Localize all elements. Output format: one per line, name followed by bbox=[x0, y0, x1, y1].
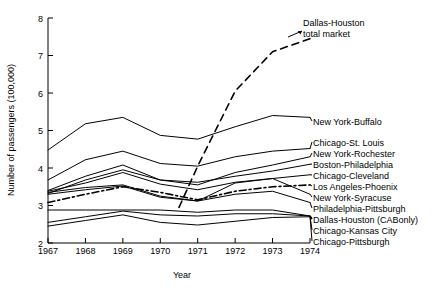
series-label: Chicago-Pittsburgh bbox=[313, 237, 390, 247]
series-label: New York-Rochester bbox=[313, 149, 395, 159]
series-label: Chicago-Kansas City bbox=[313, 226, 398, 236]
x-tick-label: 1968 bbox=[75, 246, 95, 256]
chart-figure: 2345678 19671968196919701971197219731974… bbox=[0, 0, 446, 290]
annotation-line-2: total market bbox=[303, 29, 351, 39]
x-tick-label: 1970 bbox=[150, 246, 170, 256]
series-label: Chicago-Cleveland bbox=[313, 171, 389, 181]
y-tick-label: 3 bbox=[38, 201, 43, 211]
y-tick-label: 8 bbox=[38, 14, 43, 24]
series-label: Chicago-St. Louis bbox=[313, 138, 385, 148]
x-tick-label: 1972 bbox=[225, 246, 245, 256]
annotation-line-1: Dallas-Houston bbox=[303, 18, 365, 28]
x-tick-label: 1969 bbox=[113, 246, 133, 256]
series-label: Los Angeles-Phoenix bbox=[313, 182, 398, 192]
series-label: Philadelphia-Pittsburgh bbox=[313, 204, 406, 214]
series-label: Boston-Philadelphia bbox=[313, 160, 393, 170]
y-axis-title: Number of passengers (100,000) bbox=[6, 64, 16, 196]
x-tick-label: 1973 bbox=[263, 246, 283, 256]
y-tick-label: 7 bbox=[38, 51, 43, 61]
y-tick-label: 6 bbox=[38, 89, 43, 99]
x-tick-label: 1971 bbox=[188, 246, 208, 256]
y-tick-label: 4 bbox=[38, 164, 43, 174]
y-tick-label: 5 bbox=[38, 126, 43, 136]
series-label: New York-Syracuse bbox=[313, 193, 392, 203]
x-tick-label: 1974 bbox=[300, 246, 320, 256]
series-label: Dallas-Houston (CABonly) bbox=[313, 215, 418, 225]
series-label: New York-Buffalo bbox=[313, 117, 382, 127]
x-tick-label: 1967 bbox=[38, 246, 58, 256]
line-chart-canvas: 2345678 19671968196919701971197219731974… bbox=[0, 0, 446, 290]
x-axis-title: Year bbox=[173, 270, 191, 280]
